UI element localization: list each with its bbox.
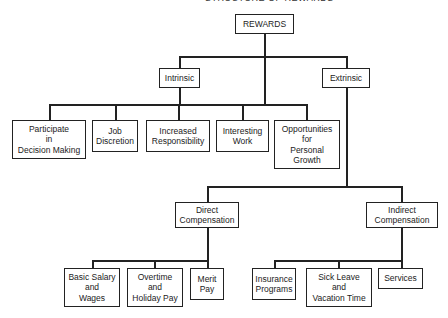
- connector: [207, 260, 209, 268]
- node-job-discretion: Job Discretion: [92, 120, 138, 152]
- connector: [207, 186, 403, 188]
- node-interesting-work: Interesting Work: [216, 120, 269, 152]
- node-extrinsic: Extrinsic: [322, 68, 370, 88]
- connector: [346, 88, 348, 186]
- node-direct-compensation: Direct Compensation: [175, 202, 239, 228]
- node-services: Services: [378, 268, 423, 289]
- node-merit-pay: Merit Pay: [190, 268, 224, 300]
- node-increased-responsibility: Increased Responsibility: [146, 120, 210, 152]
- connector: [49, 104, 51, 120]
- connector: [92, 260, 94, 268]
- node-indirect-compensation: Indirect Compensation: [366, 202, 438, 228]
- connector: [179, 56, 181, 68]
- connector: [179, 88, 181, 104]
- node-insurance-programs: Insurance Programs: [252, 268, 296, 300]
- node-intrinsic: Intrinsic: [159, 68, 200, 88]
- connector: [178, 104, 180, 120]
- diagram-title: STRUCTURE OF REWARDS: [205, 0, 334, 3]
- connector: [338, 260, 340, 268]
- connector: [179, 56, 347, 58]
- connector: [115, 104, 117, 120]
- connector: [401, 260, 403, 268]
- node-sick-leave-vacation: Sick Leave and Vacation Time: [306, 268, 372, 307]
- node-overtime-holiday-pay: Overtime and Holiday Pay: [127, 268, 183, 307]
- connector: [306, 104, 308, 120]
- connector: [346, 56, 348, 68]
- connector: [401, 186, 403, 202]
- connector: [154, 260, 156, 268]
- connector: [207, 186, 209, 202]
- connector: [242, 104, 244, 120]
- connector: [92, 260, 208, 262]
- connector: [207, 228, 209, 260]
- connector: [274, 260, 276, 268]
- node-opportunities-personal-growth: Opportunities for Personal Growth: [274, 120, 340, 169]
- node-rewards: REWARDS: [235, 14, 294, 34]
- node-basic-salary-wages: Basic Salary and Wages: [64, 268, 120, 307]
- node-participate-decision-making: Participate in Decision Making: [12, 120, 86, 159]
- connector: [401, 228, 403, 260]
- connector: [264, 33, 266, 104]
